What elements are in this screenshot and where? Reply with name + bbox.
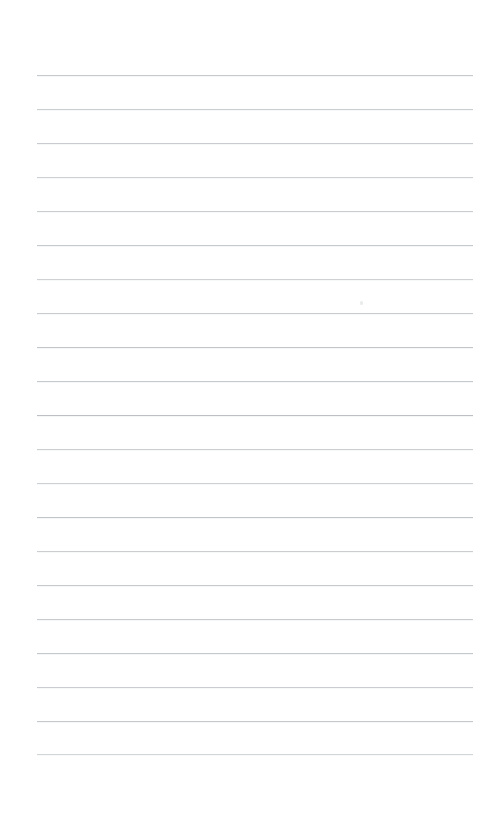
ruled-writing-area[interactable] [0,0,491,827]
rule-line-14 [37,517,473,518]
rule-line-16 [37,585,473,586]
rule-line-9 [37,347,473,348]
rule-line-11 [37,415,473,416]
paper-page [0,0,491,827]
rule-line-5 [37,211,473,212]
rule-line-13 [37,483,473,484]
rule-line-3 [37,143,473,144]
rule-line-19 [37,687,473,688]
rule-line-12 [37,449,473,450]
rule-line-1 [37,75,473,76]
rule-line-4 [37,177,473,178]
rule-line-10 [37,381,473,382]
rule-line-8 [37,313,473,314]
rule-line-17 [37,619,473,620]
rule-line-2 [37,109,473,110]
rule-line-6 [37,245,473,246]
stray-speck [360,301,363,305]
rule-line-7 [37,279,473,280]
bottom-margin [0,754,491,827]
rule-line-15 [37,551,473,552]
rule-line-18 [37,653,473,654]
rule-line-20 [37,721,473,722]
